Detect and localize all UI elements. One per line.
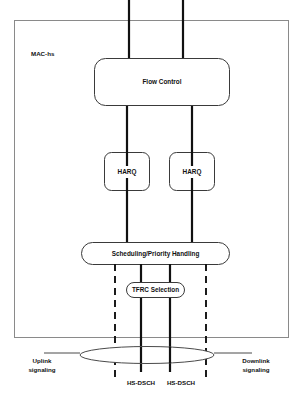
mac-hs-region-label: MAC-hs	[31, 50, 55, 57]
tfrc-selection-label: TFRC Selection	[132, 286, 179, 293]
harq-left-label: HARQ	[118, 168, 137, 176]
diagram-canvas: HARQ HARQ Flow Control Scheduling/Priori…	[0, 0, 304, 398]
hs-dsch-right-label: HS-DSCH	[167, 379, 196, 386]
air-interface-ellipse	[80, 347, 214, 364]
downlink-signaling-label-line2: signaling	[242, 366, 269, 373]
scheduling-priority-label: Scheduling/Priority Handling	[112, 250, 200, 258]
downlink-signaling-label-line1: Downlink	[242, 357, 270, 364]
uplink-signaling-label-line1: Uplink	[33, 357, 52, 364]
uplink-signaling-label-line2: signaling	[28, 366, 55, 373]
mac-hs-diagram: HARQ HARQ Flow Control Scheduling/Priori…	[0, 0, 304, 398]
flow-control-label: Flow Control	[142, 78, 181, 85]
hs-dsch-left-label: HS-DSCH	[127, 379, 156, 386]
harq-right-label: HARQ	[183, 168, 202, 176]
